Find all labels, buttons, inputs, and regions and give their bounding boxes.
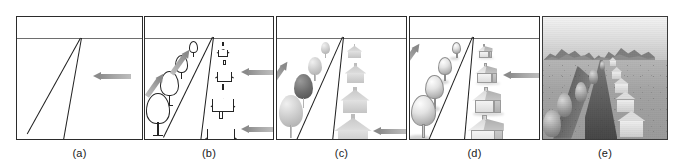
- tree-trunk: [444, 74, 446, 82]
- light-arrow-c: [276, 59, 291, 89]
- panel-a: [16, 16, 143, 140]
- house-front-wall: [475, 100, 494, 113]
- panel-c: [276, 16, 407, 140]
- house-silhouette: [335, 116, 371, 140]
- light-arrow-d: [409, 41, 423, 72]
- arrow-shaft: [409, 48, 417, 71]
- house-body: [348, 51, 361, 58]
- figure-container: (a): [0, 0, 684, 167]
- house-body: [217, 72, 233, 82]
- house-silhouette: [347, 45, 362, 58]
- house-front-wall: [477, 73, 492, 83]
- house-outline: [203, 115, 239, 140]
- panel-e: [542, 16, 668, 140]
- tree-canopy: [411, 95, 436, 126]
- panel-caption-d: (d): [409, 143, 540, 163]
- tree-trunk: [290, 125, 292, 138]
- house-3d: [477, 45, 493, 58]
- tree-outline: [146, 93, 170, 135]
- house-chimney: [219, 111, 223, 119]
- house-side-wall: [494, 100, 501, 113]
- house-side-wall: [494, 130, 503, 140]
- house-chimney: [222, 42, 224, 45]
- tree-canopy: [452, 42, 461, 54]
- house-chimney: [222, 84, 225, 91]
- house-silhouette: [341, 88, 369, 113]
- tree-canopy: [321, 42, 330, 54]
- tree-shadow: [409, 135, 430, 140]
- arrow-shaft: [248, 70, 273, 75]
- photoreal-render: [543, 17, 667, 139]
- tree-silhouette: [321, 42, 330, 58]
- house-front-wall: [479, 51, 489, 58]
- house-silhouette: [345, 64, 366, 83]
- house-body: [207, 129, 234, 140]
- house-outline: [209, 87, 237, 112]
- panel-caption-e: (e): [542, 143, 668, 163]
- tree-trunk: [193, 52, 195, 57]
- house-side-wall: [492, 73, 498, 83]
- tree-canopy: [279, 95, 303, 127]
- house-3d: [475, 64, 498, 83]
- panel-d: [409, 16, 540, 140]
- film-grain: [543, 17, 667, 139]
- house-outline: [216, 44, 230, 57]
- house-3d: [467, 116, 505, 140]
- panel-b: [144, 16, 274, 140]
- view-arrow-upper-b: [241, 68, 273, 77]
- horizon-line-b: [145, 38, 273, 39]
- house-body: [212, 99, 233, 112]
- house-side-wall: [489, 51, 493, 58]
- arrow-shaft: [510, 73, 539, 78]
- arrow-shaft: [380, 129, 406, 134]
- house-body: [218, 50, 229, 57]
- arrow-shaft: [100, 74, 131, 79]
- tree-trunk: [422, 124, 425, 137]
- horizon-line-d: [410, 38, 539, 39]
- tree-canopy: [438, 57, 452, 75]
- arrow-shaft: [276, 66, 285, 88]
- view-arrow-d: [503, 71, 539, 80]
- house-front-wall: [471, 130, 495, 140]
- view-arrow-a: [93, 72, 131, 81]
- panel-caption-b: (b): [144, 143, 274, 163]
- house-3d: [472, 88, 502, 113]
- arrow-shaft: [248, 127, 273, 132]
- tree-silhouette: [279, 95, 303, 137]
- house-outline: [214, 63, 235, 82]
- panel-caption-c: (c): [276, 143, 407, 163]
- tree-canopy: [308, 57, 322, 75]
- house-body: [338, 130, 368, 140]
- house-body: [347, 73, 365, 83]
- tree-trunk: [181, 72, 183, 80]
- tree-trunk: [456, 53, 458, 58]
- tree-base: [153, 135, 163, 136]
- tree-3d: [411, 95, 436, 137]
- view-arrow-lower-b: [241, 125, 273, 134]
- house-chimney: [223, 60, 225, 65]
- tree-3d: [452, 42, 461, 58]
- panel-caption-a: (a): [16, 143, 143, 163]
- tree-trunk: [325, 54, 326, 59]
- view-arrow-c: [373, 127, 406, 136]
- tree-trunk: [314, 74, 315, 81]
- house-body: [343, 100, 367, 114]
